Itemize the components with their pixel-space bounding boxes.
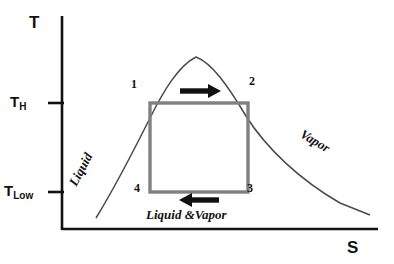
heat-rejection-arrow-icon bbox=[179, 193, 219, 207]
state-point-2-label: 2 bbox=[249, 75, 255, 87]
tick-label-t-high: TH bbox=[10, 94, 26, 109]
state-point-1-label: 1 bbox=[131, 78, 137, 90]
diagram-canvas bbox=[0, 0, 394, 264]
state-point-4-label: 4 bbox=[134, 182, 140, 194]
y-axis-title: T bbox=[29, 14, 39, 31]
tick-label-t-low-base: T bbox=[4, 182, 13, 199]
tick-label-t-low-sub: Low bbox=[13, 190, 33, 201]
region-label-liquid-vapor: Liquid &Vapor bbox=[146, 208, 227, 221]
carnot-cycle-rectangle bbox=[150, 103, 248, 192]
tick-label-t-high-sub: H bbox=[19, 101, 26, 112]
x-axis-title: S bbox=[347, 239, 358, 256]
tick-label-t-low: TLow bbox=[4, 183, 33, 198]
ts-diagram-figure: T S TH TLow 1 2 3 4 Liquid Vapor Liquid … bbox=[0, 0, 394, 264]
state-point-3-label: 3 bbox=[247, 182, 253, 194]
heat-addition-arrow-icon bbox=[180, 84, 221, 98]
tick-label-t-high-base: T bbox=[10, 93, 19, 110]
